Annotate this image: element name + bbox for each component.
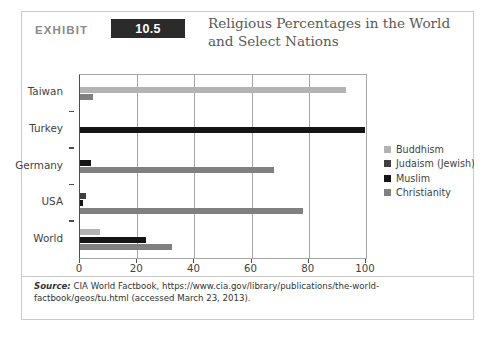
bar <box>80 200 83 206</box>
legend-label: Buddhism <box>396 144 444 155</box>
y-axis-label: Germany <box>15 159 63 171</box>
x-axis: 020406080100 <box>79 259 367 277</box>
source-divider <box>22 276 473 277</box>
legend-item: Christianity <box>384 186 472 201</box>
exhibit-header: EXHIBIT 10.5 Religious Percentages in th… <box>22 12 473 68</box>
legend-label: Christianity <box>396 187 451 198</box>
x-axis-tick-label: 0 <box>76 263 82 274</box>
source-label: Source: <box>34 281 71 291</box>
x-axis-tick-label: 40 <box>187 263 200 274</box>
bar <box>80 160 91 166</box>
chart-legend: BuddhismJudaism (Jewish)MuslimChristiani… <box>384 142 472 200</box>
bar-group <box>80 160 366 174</box>
y-axis-tick <box>69 220 74 222</box>
y-axis-label: Taiwan <box>28 85 63 97</box>
bar-group <box>80 127 366 133</box>
y-axis-tick <box>69 111 74 113</box>
legend-swatch-icon <box>384 160 391 167</box>
legend-item: Muslim <box>384 171 472 186</box>
bar <box>80 167 274 173</box>
x-axis-tick-label: 100 <box>355 263 374 274</box>
exhibit-number-badge: 10.5 <box>111 19 185 38</box>
y-axis-label: USA <box>41 195 63 207</box>
legend-swatch-icon <box>384 189 391 196</box>
bar <box>80 87 346 93</box>
y-axis-tick <box>69 147 74 149</box>
legend-item: Judaism (Jewish) <box>384 157 472 172</box>
chart-area: TaiwanTurkeyGermanyUSAWorld 020406080100… <box>22 64 475 269</box>
x-axis-tick-label: 80 <box>301 263 314 274</box>
bar <box>80 244 172 250</box>
exhibit-title: Religious Percentages in the World and S… <box>208 15 466 50</box>
plot-area <box>79 74 367 259</box>
bar <box>80 94 93 100</box>
legend-swatch-icon <box>384 146 391 153</box>
y-axis-tick <box>69 184 74 186</box>
bar <box>80 193 86 199</box>
y-axis-label: Turkey <box>29 122 63 134</box>
bar <box>80 237 146 243</box>
legend-label: Muslim <box>396 173 430 184</box>
y-axis-labels: TaiwanTurkeyGermanyUSAWorld <box>22 74 74 259</box>
source-note: Source: CIA World Factbook, https://www.… <box>34 281 462 304</box>
legend-item: Buddhism <box>384 142 472 157</box>
bar-group <box>80 229 366 250</box>
bar <box>80 208 303 214</box>
source-text: CIA World Factbook, https://www.cia.gov/… <box>34 281 379 303</box>
bar-group <box>80 193 366 214</box>
bar <box>80 127 365 133</box>
legend-label: Judaism (Jewish) <box>396 158 475 169</box>
legend-swatch-icon <box>384 175 391 182</box>
y-axis-label: World <box>33 232 63 244</box>
x-axis-tick-label: 60 <box>244 263 257 274</box>
exhibit-label: EXHIBIT <box>35 24 88 36</box>
exhibit-card: EXHIBIT 10.5 Religious Percentages in th… <box>21 11 474 320</box>
x-axis-tick-label: 20 <box>130 263 143 274</box>
bar-group <box>80 87 366 101</box>
bar <box>80 229 100 235</box>
